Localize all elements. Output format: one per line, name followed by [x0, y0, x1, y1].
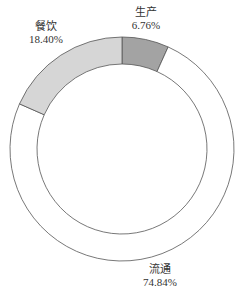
label-catering: 餐饮 18.40%	[22, 20, 70, 46]
label-circulation: 流通 74.84%	[135, 263, 185, 289]
label-production: 生产 6.76%	[122, 6, 170, 32]
label-catering-pct: 18.40%	[22, 33, 70, 46]
donut-slice-2	[19, 37, 122, 115]
label-circulation-name: 流通	[135, 263, 185, 276]
label-production-pct: 6.76%	[122, 19, 170, 32]
label-circulation-pct: 74.84%	[135, 276, 185, 289]
label-catering-name: 餐饮	[22, 20, 70, 33]
label-production-name: 生产	[122, 6, 170, 19]
